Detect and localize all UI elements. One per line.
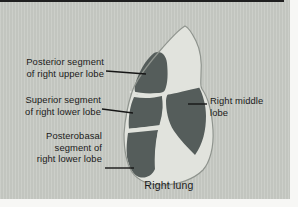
- segment-superior-lower-lobe-shape: [129, 96, 163, 129]
- label-line: of right lower lobe: [25, 106, 101, 118]
- label-line: segment of: [37, 142, 102, 154]
- label-posterior-upper-lobe: Posterior segment of right upper lobe: [26, 56, 104, 79]
- figure-caption: Right lung: [133, 179, 205, 192]
- label-line: Superior segment: [25, 94, 101, 106]
- label-line: lobe: [210, 107, 263, 119]
- label-posterobasal-lower-lobe: Posterobasal segment of right lower lobe: [37, 130, 102, 165]
- label-line: of right upper lobe: [26, 68, 104, 80]
- label-right-middle-lobe: Right middle lobe: [210, 95, 263, 118]
- label-line: Posterior segment: [26, 56, 104, 68]
- label-line: Right middle: [210, 95, 263, 107]
- label-line: right lower lobe: [37, 153, 102, 165]
- label-line: Posterobasal: [37, 130, 102, 142]
- label-superior-lower-lobe: Superior segment of right lower lobe: [25, 94, 101, 117]
- figure-canvas: Posterior segment of right upper lobe Su…: [0, 0, 298, 207]
